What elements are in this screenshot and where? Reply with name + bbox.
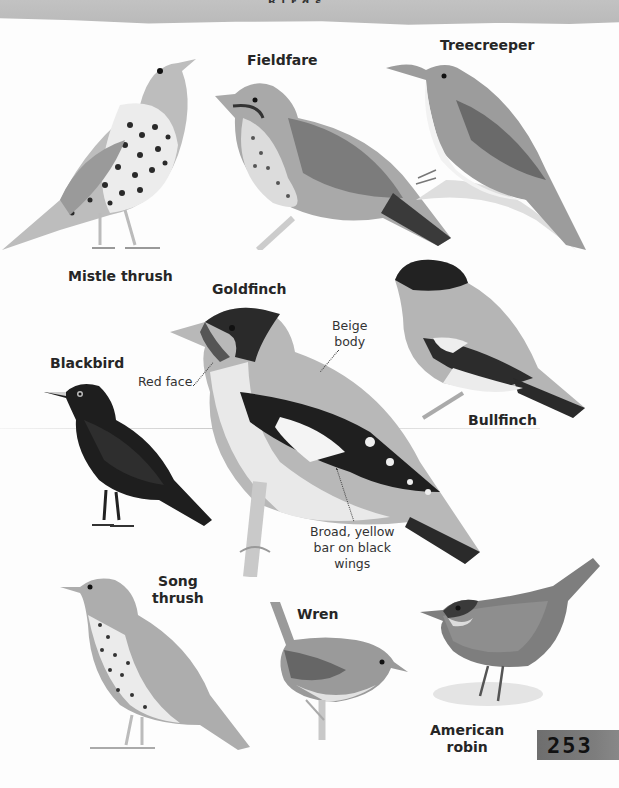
blackbird-label: Blackbird [50,355,124,372]
mistle-thrush-illustration [0,45,200,260]
page-number: 253 [547,733,593,758]
bullfinch-label: Bullfinch [468,412,537,429]
page-header-text: Birds [268,0,348,3]
goldfinch-label: Goldfinch [212,281,287,298]
page-number-tab: 253 [537,730,619,760]
beige-body-line1: Beige [332,318,367,334]
book-page: Birds Mistle thrush Fieldfare [0,0,619,788]
mistle-thrush-label: Mistle thrush [68,268,173,285]
treecreeper-label: Treecreeper [440,37,535,54]
goldfinch-beige-body-annotation: Beige body [332,318,367,350]
wing-bar-line2: bar on black [310,540,395,556]
blackbird-illustration [44,380,214,530]
american-robin-label: American robin [430,722,504,756]
song-thrush-illustration [60,575,252,753]
fieldfare-label: Fieldfare [247,52,318,69]
bullfinch-illustration [393,258,588,426]
beige-body-line2: body [332,334,367,350]
american-robin-illustration [418,556,603,711]
page-header-band: Birds [0,0,619,26]
wing-bar-line3: wings [310,556,395,572]
treecreeper-illustration [386,60,591,255]
goldfinch-wing-bar-annotation: Broad, yellow bar on black wings [310,524,395,572]
american-robin-label-line2: robin [430,739,504,756]
wing-bar-line1: Broad, yellow [310,524,395,540]
wren-illustration [266,600,410,742]
american-robin-label-line1: American [430,722,504,739]
